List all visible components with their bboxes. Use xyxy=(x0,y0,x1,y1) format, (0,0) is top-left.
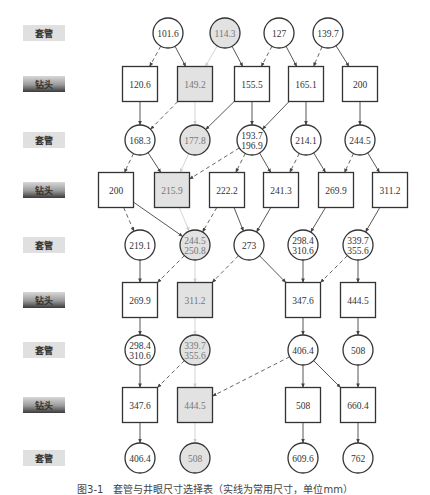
casing-node-c5d: 298.4310.6 xyxy=(288,230,318,260)
row-label-casing: 套管 xyxy=(23,450,65,466)
casing-node-c9d: 762 xyxy=(343,443,373,473)
node-value: 269.9 xyxy=(325,186,347,196)
edge-dash xyxy=(290,153,300,172)
bit-node-b2d: 165.1 xyxy=(289,67,324,102)
row-label-text: 钻头 xyxy=(35,295,53,306)
node-value: 311.2 xyxy=(184,296,205,306)
node-value: 762 xyxy=(351,454,366,464)
node-value: 155.5 xyxy=(241,80,263,90)
edge-solid xyxy=(314,153,326,173)
node-value: 196.9 xyxy=(241,141,263,151)
row-label-casing: 套管 xyxy=(23,132,65,148)
casing-bit-selection-diagram: 套管钻头套管钻头套管钻头套管钻头套管 101.6114.3127139.7120… xyxy=(0,0,430,495)
row-label-casing: 套管 xyxy=(23,342,65,358)
edge-solid xyxy=(257,208,271,233)
row-label-bit: 钻头 xyxy=(23,182,65,198)
edge-solid xyxy=(286,46,297,66)
bit-node-b4e: 269.9 xyxy=(319,173,354,208)
row-label-casing: 套管 xyxy=(23,237,65,253)
node-value: 241.3 xyxy=(270,186,292,196)
row-label-text: 套管 xyxy=(35,28,53,39)
row-label-text: 套管 xyxy=(35,240,53,251)
edge-dash xyxy=(344,154,353,173)
figure-caption: 图3-1 套管与井眼尺寸选择表（实线为常用尺寸，单位mm） xyxy=(0,481,430,495)
row-label-bit: 钻头 xyxy=(23,292,65,308)
node-value: 444.5 xyxy=(347,296,369,306)
node-value: 127 xyxy=(272,29,287,39)
casing-node-c5e: 339.7355.6 xyxy=(343,230,373,260)
row-label-text: 钻头 xyxy=(35,79,53,90)
node-value: 508 xyxy=(296,401,311,411)
casing-node-c5a: 219.1 xyxy=(125,230,155,260)
bit-node-b4b: 215.9 xyxy=(155,173,190,208)
bit-node-b4c: 222.2 xyxy=(210,173,245,208)
bit-node-b4a: 200 xyxy=(99,173,134,208)
casing-node-c7d: 508 xyxy=(343,335,373,365)
node-value: 244.5 xyxy=(184,236,206,246)
node-value: 149.2 xyxy=(184,80,206,90)
bit-node-b6c: 347.6 xyxy=(286,283,321,318)
edge-dash xyxy=(203,208,217,233)
bit-node-b8d: 660.4 xyxy=(341,388,376,423)
edge-solid xyxy=(311,208,326,233)
bit-node-b2b: 149.2 xyxy=(178,67,213,102)
bit-node-b2c: 155.5 xyxy=(235,67,270,102)
edge-solid xyxy=(234,208,243,232)
node-value: 215.9 xyxy=(161,186,183,196)
bit-node-b6d: 444.5 xyxy=(341,283,376,318)
node-value: 219.1 xyxy=(129,241,151,251)
node-value: 168.3 xyxy=(129,136,151,146)
node-value: 177.8 xyxy=(184,136,206,146)
node-value: 298.4 xyxy=(292,236,314,246)
casing-node-c5b: 244.5250.8 xyxy=(180,230,210,260)
row-label-text: 套管 xyxy=(35,453,53,464)
node-value: 165.1 xyxy=(295,80,317,90)
edge-solid xyxy=(336,46,349,67)
edge-light xyxy=(179,208,189,232)
node-value: 222.2 xyxy=(216,186,238,196)
nodes: 101.6114.3127139.7120.6149.2155.5165.120… xyxy=(99,18,408,473)
row-label-text: 套管 xyxy=(35,135,53,146)
edge-dash xyxy=(150,46,161,66)
casing-node-c7a: 298.4310.6 xyxy=(125,335,155,365)
edge-dash xyxy=(151,102,178,130)
edge-solid xyxy=(314,361,341,388)
bit-node-b8b: 444.5 xyxy=(178,388,213,423)
node-value: 298.4 xyxy=(129,341,151,351)
node-value: 193.7 xyxy=(241,131,263,141)
node-value: 311.2 xyxy=(379,186,400,196)
node-value: 339.7 xyxy=(347,236,369,246)
node-value: 339.7 xyxy=(184,341,206,351)
edge-solid xyxy=(366,208,380,233)
bit-node-b6a: 269.9 xyxy=(123,283,158,318)
node-value: 444.5 xyxy=(184,401,206,411)
casing-node-c3b: 177.8 xyxy=(180,125,210,155)
casing-node-c1c: 127 xyxy=(264,18,294,48)
bit-node-b2e: 200 xyxy=(343,67,378,102)
edge-solid xyxy=(148,153,161,173)
edge-solid xyxy=(232,46,243,66)
casing-node-c1a: 101.6 xyxy=(153,18,183,48)
node-value: 273 xyxy=(242,241,257,251)
node-value: 101.6 xyxy=(157,29,179,39)
edge-dash xyxy=(124,154,133,173)
edge-dash xyxy=(212,256,238,283)
node-value: 310.6 xyxy=(129,351,151,361)
casing-node-c3c: 193.7196.9 xyxy=(237,125,267,155)
casing-node-c1d: 139.7 xyxy=(313,18,343,48)
row-label-text: 套管 xyxy=(35,345,53,356)
bit-node-b4d: 241.3 xyxy=(264,173,299,208)
casing-node-c9a: 406.4 xyxy=(125,443,155,473)
node-value: 200 xyxy=(353,80,368,90)
node-value: 244.5 xyxy=(349,136,371,146)
row-label-text: 钻头 xyxy=(35,185,53,196)
casing-node-c9b: 508 xyxy=(180,443,210,473)
node-value: 406.4 xyxy=(129,454,151,464)
casing-node-c3d: 214.1 xyxy=(291,125,321,155)
edge-dash xyxy=(314,47,323,67)
casing-node-c9c: 609.6 xyxy=(288,443,318,473)
node-value: 347.6 xyxy=(129,401,151,411)
bit-node-b6b: 311.2 xyxy=(178,283,213,318)
edge-solid xyxy=(262,102,289,130)
node-value: 660.4 xyxy=(347,401,369,411)
